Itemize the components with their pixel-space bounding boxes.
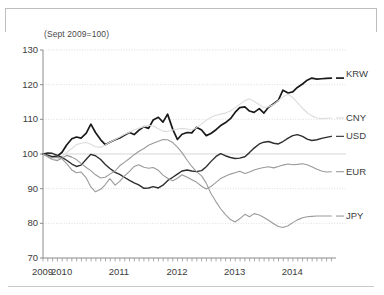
series-label-krw: KRW	[346, 68, 368, 79]
y-tick-label: 120	[12, 79, 38, 90]
series-label-cny: CNY	[346, 112, 366, 123]
series-line-jpy	[43, 139, 331, 227]
x-tick-label: 2013	[224, 266, 245, 277]
y-tick-label: 110	[12, 113, 38, 124]
x-tick-label: 2014	[282, 266, 303, 277]
series-line-krw	[43, 78, 331, 157]
series-label-jpy: JPY	[346, 210, 363, 221]
x-tick-label: 2012	[166, 266, 187, 277]
chart-figure: (Sept 2009=100) 708090100110120130 20092…	[0, 0, 384, 295]
data-series-group	[43, 78, 344, 227]
y-tick-label: 130	[12, 44, 38, 55]
series-label-eur: EUR	[346, 166, 366, 177]
x-tick-label: 2010	[51, 266, 72, 277]
y-tick-label: 100	[12, 148, 38, 159]
series-label-usd: USD	[346, 130, 366, 141]
x-axis-minor-ticks	[43, 258, 331, 262]
x-tick-label: 2011	[109, 266, 129, 277]
gridlines	[40, 50, 346, 258]
y-tick-label: 90	[12, 183, 38, 194]
y-tick-label: 80	[12, 217, 38, 228]
y-tick-label: 70	[12, 252, 38, 263]
line-chart-svg	[0, 0, 384, 295]
figure-bottom-rule	[8, 286, 374, 287]
series-line-cny	[43, 94, 331, 159]
x-tick-label: 2009	[32, 266, 53, 277]
